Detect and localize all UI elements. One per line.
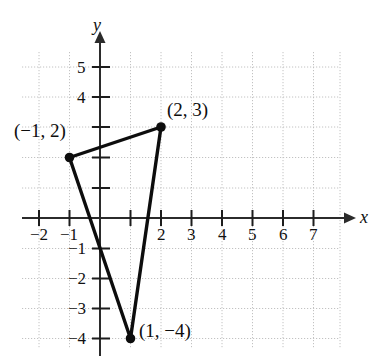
coordinate-plot bbox=[0, 0, 376, 361]
x-tick-label--2: −2 bbox=[30, 226, 48, 243]
vertex-point bbox=[156, 122, 166, 132]
x-tick-label-7: 7 bbox=[309, 226, 318, 243]
y-tick-label--3: −3 bbox=[68, 300, 86, 317]
x-tick-label-5: 5 bbox=[248, 226, 257, 243]
vertex-point bbox=[65, 153, 75, 163]
y-tick-label-5: 5 bbox=[77, 59, 86, 76]
x-axis-label: x bbox=[360, 208, 368, 226]
point-label-1-minus4: (1, −4) bbox=[139, 321, 191, 340]
y-tick-label--2: −2 bbox=[68, 270, 86, 287]
vertex-point bbox=[126, 334, 136, 344]
x-tick-label-6: 6 bbox=[279, 226, 288, 243]
y-axis bbox=[95, 31, 106, 356]
point-label-2-3: (2, 3) bbox=[167, 100, 208, 119]
x-tick-label-4: 4 bbox=[218, 226, 227, 243]
x-axis-arrow-icon bbox=[344, 213, 356, 224]
x-tick-label-3: 3 bbox=[187, 226, 196, 243]
x-tick-label-2: 2 bbox=[157, 226, 166, 243]
y-tick-label-4: 4 bbox=[77, 89, 86, 106]
x-axis bbox=[22, 213, 356, 224]
coordinate-plane-figure: −2 −1 2 3 4 5 6 7 5 4 −1 −2 −3 −4 y x (−… bbox=[0, 0, 376, 361]
point-label-minus1-2: (−1, 2) bbox=[14, 121, 66, 140]
y-axis-label: y bbox=[93, 16, 101, 34]
y-tick-label--1: −1 bbox=[68, 240, 86, 257]
y-tick-label--4: −4 bbox=[68, 330, 86, 347]
